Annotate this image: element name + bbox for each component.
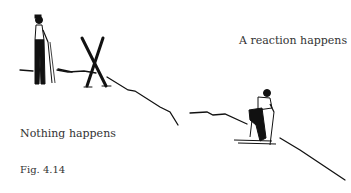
standing-skier-figure xyxy=(35,15,55,84)
reaction-label: A reaction happens xyxy=(239,34,347,47)
nothing-label: Nothing happens xyxy=(20,127,116,140)
slope-lines xyxy=(20,69,345,180)
figure-caption: Fig. 4.14 xyxy=(20,164,65,175)
crossed-skis xyxy=(82,38,111,87)
crouching-skier-figure xyxy=(234,90,276,146)
